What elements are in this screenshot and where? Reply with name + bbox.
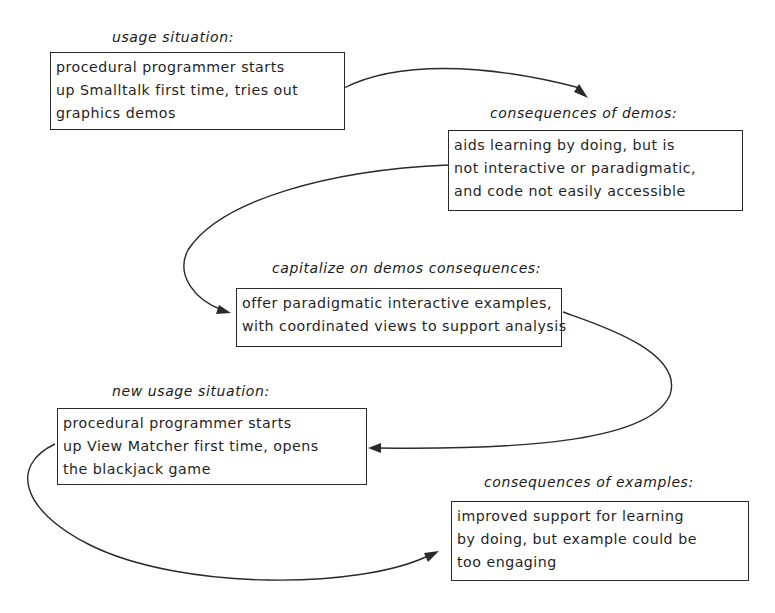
node-text-line: offer paradigmatic interactive examples,: [242, 292, 555, 315]
node-text-line: graphics demos: [56, 102, 338, 125]
node-text-line: up Smalltalk first time, tries out: [56, 79, 338, 102]
node-text-line: too engaging: [457, 551, 742, 574]
node-text-line: not interactive or paradigmatic,: [454, 157, 736, 180]
node-text-line: the blackjack game: [63, 458, 360, 481]
node-label-new-usage-situation: new usage situation:: [112, 383, 270, 399]
node-box-capitalize-on-demos: offer paradigmatic interactive examples,…: [236, 288, 562, 347]
node-box-usage-situation: procedural programmer starts up Smalltal…: [50, 52, 345, 130]
arrow-usage-to-demos-consequences: [344, 69, 580, 89]
arrowhead-icon: [574, 84, 588, 98]
node-text-line: by doing, but example could be: [457, 528, 742, 551]
node-text-line: aids learning by doing, but is: [454, 134, 736, 157]
node-box-new-usage-situation: procedural programmer starts up View Mat…: [57, 408, 367, 485]
node-text-line: procedural programmer starts: [56, 56, 338, 79]
node-label-consequences-of-examples: consequences of examples:: [484, 474, 694, 490]
node-text-line: and code not easily accessible: [454, 180, 736, 203]
node-label-usage-situation: usage situation:: [112, 29, 234, 45]
task-artifact-cycle-diagram: usage situation: procedural programmer s…: [0, 0, 775, 613]
node-label-consequences-of-demos: consequences of demos:: [490, 105, 677, 121]
arrowhead-icon: [368, 443, 381, 453]
node-label-capitalize-on-demos: capitalize on demos consequences:: [272, 260, 541, 276]
arrowhead-icon: [216, 305, 231, 314]
node-text-line: up View Matcher first time, opens: [63, 435, 360, 458]
node-box-consequences-of-examples: improved support for learning by doing, …: [451, 501, 749, 581]
arrowhead-icon: [424, 551, 439, 562]
node-text-line: improved support for learning: [457, 505, 742, 528]
node-box-consequences-of-demos: aids learning by doing, but is not inter…: [448, 130, 743, 211]
node-text-line: procedural programmer starts: [63, 412, 360, 435]
node-text-line: with coordinated views to support analys…: [242, 315, 555, 338]
